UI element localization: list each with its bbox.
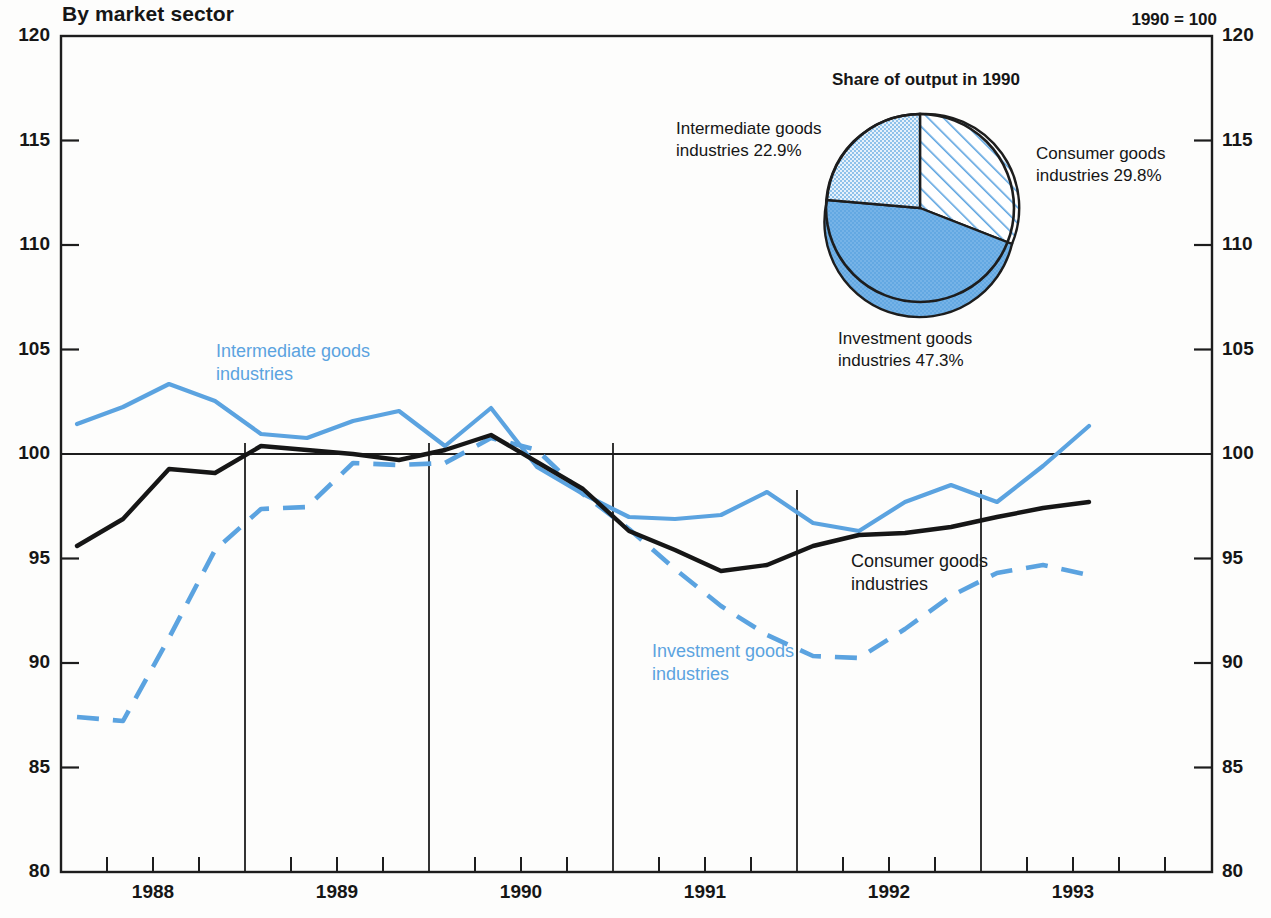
x-tick-1993: 1993 bbox=[1028, 881, 1118, 903]
y-tick-left-100: 100 bbox=[4, 442, 50, 464]
y-tick-right-85: 85 bbox=[1222, 756, 1271, 778]
x-tick-1992: 1992 bbox=[844, 881, 934, 903]
y-tick-right-105: 105 bbox=[1222, 338, 1271, 360]
x-tick-1990: 1990 bbox=[476, 881, 566, 903]
y-tick-right-80: 80 bbox=[1222, 860, 1271, 882]
series-line-intermediate-goods bbox=[77, 384, 1089, 531]
y-tick-left-85: 85 bbox=[4, 756, 50, 778]
y-tick-right-120: 120 bbox=[1222, 24, 1271, 46]
y-tick-left-95: 95 bbox=[4, 547, 50, 569]
series-line-consumer-goods bbox=[77, 435, 1089, 571]
y-tick-left-120: 120 bbox=[4, 24, 50, 46]
y-tick-right-90: 90 bbox=[1222, 651, 1271, 673]
y-tick-left-90: 90 bbox=[4, 651, 50, 673]
x-tick-1989: 1989 bbox=[292, 881, 382, 903]
pie-chart bbox=[824, 114, 1019, 317]
y-tick-left-115: 115 bbox=[4, 129, 50, 151]
pie-slice-intermediate-goods bbox=[827, 114, 920, 208]
x-tick-1988: 1988 bbox=[108, 881, 198, 903]
x-axis-quarter-ticks bbox=[107, 857, 1165, 872]
y-tick-right-100: 100 bbox=[1222, 442, 1271, 464]
series-line-investment-goods bbox=[77, 438, 1089, 721]
y-tick-left-105: 105 bbox=[4, 338, 50, 360]
y-tick-left-80: 80 bbox=[4, 860, 50, 882]
chart-canvas bbox=[0, 0, 1271, 918]
y-tick-right-115: 115 bbox=[1222, 129, 1271, 151]
x-tick-1991: 1991 bbox=[660, 881, 750, 903]
chart-figure: By market sector 1990 = 100 Share of out… bbox=[0, 0, 1271, 918]
y-tick-right-95: 95 bbox=[1222, 547, 1271, 569]
y-tick-left-110: 110 bbox=[4, 233, 50, 255]
y-tick-right-110: 110 bbox=[1222, 233, 1271, 255]
